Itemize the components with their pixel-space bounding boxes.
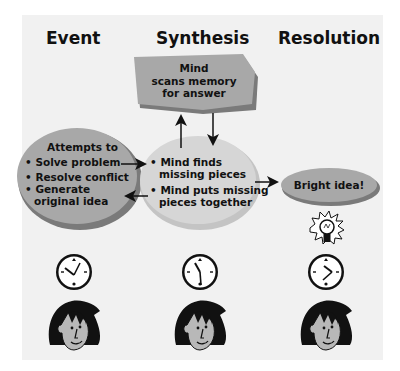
person-face-icon-synthesis [175, 301, 226, 350]
event-bullet-continuation: original idea [25, 196, 129, 208]
resolution-node-label: Bright idea! [283, 179, 375, 191]
clock-icon-resolution [308, 254, 344, 290]
heading-event: Event [46, 28, 100, 48]
synthesis-node-list: • Mind finds missing pieces • Mind puts … [150, 156, 269, 208]
person-face-icon-resolution [301, 301, 352, 350]
heading-synthesis: Synthesis [156, 28, 249, 48]
synthesis-bullet-continuation: missing pieces [150, 168, 269, 180]
synthesis-bullet-item: • Mind finds [150, 156, 269, 168]
heading-resolution: Resolution [278, 28, 380, 48]
memory-line: for answer [134, 87, 254, 100]
synthesis-bullet-item: • Mind puts missing [150, 184, 269, 196]
event-node-title: Attempts to [47, 141, 118, 153]
event-node-list: • Solve problem • Resolve conflict • Gen… [25, 155, 129, 207]
event-bullet-item: • Generate [25, 184, 129, 196]
clock-icon-event [56, 254, 92, 290]
lightbulb-icon [310, 211, 344, 244]
person-face-icon-event [49, 301, 100, 350]
event-bullet-item: • Solve problem [25, 155, 129, 170]
clock-icon-synthesis [182, 254, 218, 290]
memory-line: scans memory [134, 75, 254, 88]
event-bullet-item: • Resolve conflict [25, 170, 129, 185]
synthesis-bullet-continuation: pieces together [150, 196, 269, 208]
memory-box-text: Mind scans memory for answer [134, 62, 254, 100]
memory-line: Mind [134, 62, 254, 75]
